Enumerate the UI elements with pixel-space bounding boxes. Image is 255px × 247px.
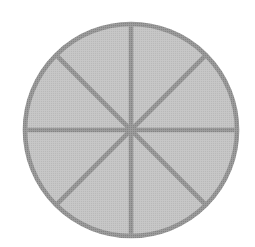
fraction-circle-diagram: Circle divided into eight equal sectors	[0, 0, 255, 247]
sector-divider-group	[27, 26, 234, 233]
figure-canvas: Circle divided into eight equal sectors	[0, 0, 255, 247]
